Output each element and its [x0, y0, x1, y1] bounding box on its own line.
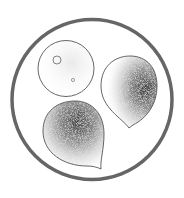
round-spore [38, 41, 94, 97]
upper-teardrop-spore [100, 55, 158, 130]
lower-teardrop-spore [42, 100, 106, 171]
spore-illustration [0, 0, 184, 198]
